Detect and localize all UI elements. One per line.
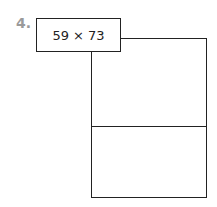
area-model-top-cell[interactable] xyxy=(92,39,206,127)
problem-number: 4. xyxy=(16,15,31,31)
expression-text: 59 × 73 xyxy=(52,28,104,43)
area-model-bottom-cell[interactable] xyxy=(92,127,206,197)
expression-box: 59 × 73 xyxy=(36,18,121,52)
area-model xyxy=(91,38,207,198)
